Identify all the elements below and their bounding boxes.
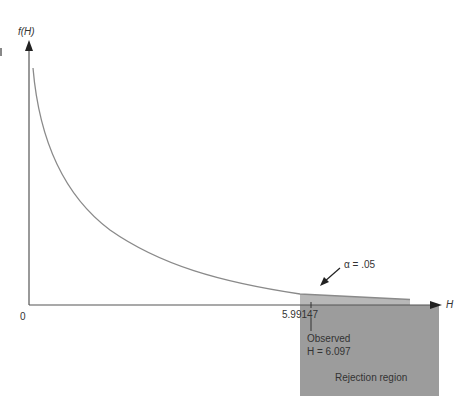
alpha-tail-shade xyxy=(300,294,410,305)
y-axis-arrow-icon xyxy=(25,40,33,51)
alpha-label: α = .05 xyxy=(344,259,375,271)
critical-value-label: 5.99147 xyxy=(282,309,318,321)
rejection-region-label: Rejection region xyxy=(335,372,407,384)
chart-canvas xyxy=(0,0,471,418)
y-axis-label: f(H) xyxy=(18,26,35,38)
observed-label: Observed xyxy=(307,333,350,345)
x-axis-label: H xyxy=(446,299,453,311)
origin-label: 0 xyxy=(20,311,26,323)
observed-value-label: H = 6.097 xyxy=(307,346,351,358)
